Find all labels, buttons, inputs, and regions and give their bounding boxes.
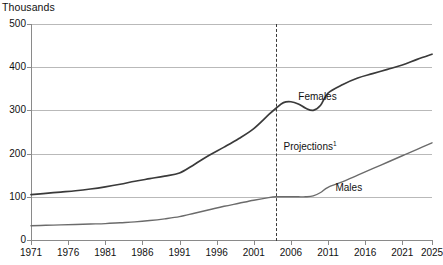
x-tick-mark-1971 (31, 241, 32, 245)
x-tick-label-1981: 1981 (94, 247, 116, 258)
y-tick-label-100: 100 (0, 191, 26, 202)
y-tick-label-500: 500 (0, 18, 26, 29)
females-label: Females (298, 91, 336, 102)
x-tick-label-1986: 1986 (131, 247, 153, 258)
y-tick-label-0: 0 (0, 234, 26, 245)
gridline-y-400 (31, 67, 432, 68)
gridline-y-200 (31, 154, 432, 155)
x-tick-mark-2016 (365, 241, 366, 245)
x-tick-label-1976: 1976 (57, 247, 79, 258)
y-tick-label-400: 400 (0, 61, 26, 72)
x-tick-label-2025: 2025 (421, 247, 443, 258)
projections-label: Projections1 (283, 140, 336, 152)
males-label: Males (335, 182, 362, 193)
x-tick-mark-1981 (105, 241, 106, 245)
x-tick-label-2016: 2016 (354, 247, 376, 258)
x-axis-line (31, 240, 433, 241)
gridline-y-100 (31, 197, 432, 198)
projection-divider-line (276, 24, 277, 241)
x-tick-label-1991: 1991 (168, 247, 190, 258)
x-tick-mark-2025 (432, 241, 433, 245)
series-line-females (31, 54, 432, 194)
x-tick-label-2021: 2021 (391, 247, 413, 258)
gridline-y-300 (31, 110, 432, 111)
x-tick-mark-2021 (402, 241, 403, 245)
y-axis-unit-label: Thousands (2, 1, 55, 13)
x-tick-mark-1996 (217, 241, 218, 245)
x-tick-label-1996: 1996 (206, 247, 228, 258)
x-tick-mark-1991 (180, 241, 181, 245)
x-tick-mark-2011 (328, 241, 329, 245)
x-tick-label-2001: 2001 (243, 247, 265, 258)
series-line-males (31, 143, 432, 226)
x-tick-mark-2001 (254, 241, 255, 245)
y-tick-label-300: 300 (0, 104, 26, 115)
x-tick-label-2011: 2011 (317, 247, 339, 258)
x-tick-label-1971: 1971 (20, 247, 42, 258)
y-tick-label-200: 200 (0, 148, 26, 159)
x-tick-mark-1986 (142, 241, 143, 245)
projections-label-footnote-marker: 1 (333, 140, 337, 147)
y-axis-line (31, 24, 32, 241)
x-tick-mark-2006 (291, 241, 292, 245)
x-tick-label-2006: 2006 (280, 247, 302, 258)
gridline-y-500 (31, 24, 432, 25)
x-tick-mark-1976 (68, 241, 69, 245)
